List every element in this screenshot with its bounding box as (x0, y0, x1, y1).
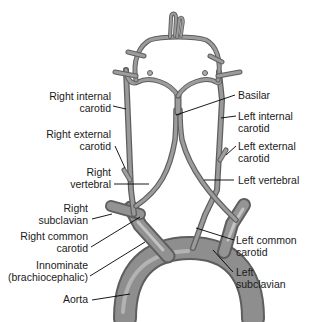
label-line: subclavian (38, 214, 88, 226)
label-line: Right (70, 166, 111, 178)
label-line: Left external (238, 140, 296, 152)
label-line: carotid (238, 152, 296, 164)
label-right-internal-carotid: Right internal carotid (49, 90, 111, 114)
label-right-external-carotid: Right external carotid (46, 128, 111, 152)
label-line: Left vertebral (238, 174, 299, 186)
label-line: carotid (20, 242, 88, 254)
label-line: Left internal (238, 110, 293, 122)
label-line: Right internal (49, 90, 111, 102)
label-line: Right common (20, 230, 88, 242)
label-line: carotid (238, 122, 293, 134)
label-line: Innominate (8, 259, 88, 271)
label-line: vertebral (70, 178, 111, 190)
label-left-internal-carotid: Left internal carotid (238, 110, 293, 134)
aorta-vessel (123, 248, 253, 318)
label-right-vertebral: Right vertebral (70, 166, 111, 190)
label-left-common-carotid: Left common carotid (236, 234, 297, 258)
label-line: Left (236, 266, 286, 278)
label-right-subclavian: Right subclavian (38, 202, 88, 226)
label-line: Basilar (238, 89, 270, 101)
label-line: carotid (49, 102, 111, 114)
label-line: carotid (46, 140, 111, 152)
label-right-common-carotid: Right common carotid (20, 230, 88, 254)
label-left-subclavian: Left subclavian (236, 266, 286, 290)
label-line: subclavian (236, 278, 286, 290)
label-left-external-carotid: Left external carotid (238, 140, 296, 164)
circle-of-willis-vessels (115, 14, 240, 97)
label-line: Right external (46, 128, 111, 140)
label-line: Right (38, 202, 88, 214)
label-left-vertebral: Left vertebral (238, 174, 299, 186)
label-line: (brachiocephalic) (8, 271, 88, 283)
label-innominate: Innominate (brachiocephalic) (8, 259, 88, 283)
label-basilar: Basilar (238, 89, 270, 101)
label-line: Left common (236, 234, 297, 246)
label-line: carotid (236, 246, 297, 258)
label-line: Aorta (63, 293, 88, 305)
label-aorta: Aorta (63, 293, 88, 305)
